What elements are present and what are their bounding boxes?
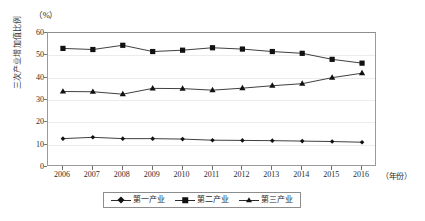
plot-inner [48, 33, 375, 165]
square-marker-icon [175, 196, 195, 205]
series-diamond [61, 135, 365, 145]
x-axis-tick-label: 2008 [114, 170, 130, 179]
data-point [60, 46, 65, 51]
legend-label: 第三产业 [261, 196, 293, 204]
data-point [180, 137, 185, 142]
data-point [270, 49, 275, 54]
legend-marker [246, 197, 252, 202]
legend-entry[interactable]: 第一产业 [111, 196, 165, 205]
x-axis-tick-label: 2011 [204, 170, 220, 179]
data-point [210, 45, 215, 50]
data-point [120, 136, 125, 141]
y-axis-tick-label: 50 [4, 50, 44, 59]
x-axis-tick-label: 2007 [84, 170, 100, 179]
x-axis-tick-label: 2010 [174, 170, 190, 179]
triangle-marker-icon [239, 196, 259, 205]
y-axis-tick-label: 10 [4, 139, 44, 148]
data-point [360, 140, 365, 145]
data-point [120, 43, 125, 48]
x-axis-tick-label: 2006 [54, 170, 70, 179]
data-point [330, 57, 335, 62]
x-axis-tick-label: 2013 [263, 170, 279, 179]
data-point [90, 47, 95, 52]
data-point [239, 85, 245, 90]
data-point [61, 136, 66, 141]
legend-label: 第二产业 [197, 196, 229, 204]
legend-label: 第一产业 [133, 196, 165, 204]
data-point [90, 88, 96, 93]
data-point [150, 85, 156, 90]
y-axis-tick-mark [44, 166, 47, 167]
series-layer [48, 33, 377, 167]
diamond-marker-icon [111, 196, 131, 205]
y-axis-tick-label: 60 [4, 28, 44, 37]
y-axis-unit-label: （%） [34, 8, 58, 20]
data-point [300, 139, 305, 144]
data-point [330, 139, 335, 144]
legend-entry[interactable]: 第二产业 [175, 196, 229, 205]
data-point [270, 138, 275, 143]
chart-figure: （%） 三次产业增加值比例 0102030405060 200620072008… [0, 0, 425, 221]
data-point [179, 85, 185, 90]
x-axis-tick-label: 2015 [323, 170, 339, 179]
y-axis-tick-label: 30 [4, 95, 44, 104]
x-axis-tick-label: 2014 [293, 170, 309, 179]
data-point [359, 61, 364, 66]
data-point [240, 138, 245, 143]
legend-marker [117, 196, 124, 203]
x-axis-tick-label: 2012 [233, 170, 249, 179]
plot-area [47, 32, 376, 166]
y-axis-tick-label: 40 [4, 72, 44, 81]
legend-entry[interactable]: 第三产业 [239, 196, 293, 205]
chart-legend: 第一产业第二产业第三产业 [103, 192, 301, 208]
data-point [359, 70, 365, 75]
data-point [150, 136, 155, 141]
x-axis-tick-label: 2009 [144, 170, 160, 179]
data-point [269, 82, 275, 87]
data-point [240, 46, 245, 51]
legend-marker [182, 197, 188, 203]
series-triangle [60, 70, 365, 96]
data-point [300, 51, 305, 56]
data-point [91, 135, 96, 140]
data-point [180, 48, 185, 53]
x-axis-tick-label: 2016 [353, 170, 369, 179]
x-axis-title: （年份） [381, 170, 412, 181]
series-square [60, 43, 364, 66]
y-axis-tick-label: 0 [4, 162, 44, 171]
data-point [210, 138, 215, 143]
data-point [150, 49, 155, 54]
data-point [60, 88, 66, 93]
y-axis-tick-label: 20 [4, 117, 44, 126]
data-point [209, 87, 215, 92]
